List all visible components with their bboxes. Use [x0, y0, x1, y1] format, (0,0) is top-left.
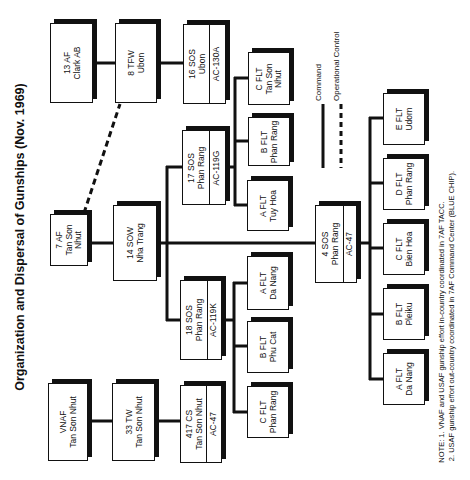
flight-17sos-a: A FLTTuy Hoa	[247, 180, 289, 231]
aircraft-type: AC-119G	[212, 150, 222, 185]
flight-4sos-d: D FLTPhan Rang	[383, 158, 425, 210]
flight-17sos-c: C FLTTan SonNhut	[248, 52, 290, 105]
note-2: 2. USAF gunship effort out-country coord…	[447, 171, 456, 461]
unit-14sow: 14 SOWNha Trang	[113, 205, 157, 281]
unit-4sos: 4 SOSPhan Rang AC-47	[315, 205, 357, 283]
unit-13af: 13 AFClark AB	[50, 23, 93, 103]
flight-18sos-a: A FLTDa Nang	[247, 256, 289, 310]
legend-operational-label: Operational Control	[332, 32, 341, 101]
unit-17sos: 17 SOSPhan Rang AC-119G	[182, 130, 226, 205]
note-1: NOTE: 1. VNAF and USAF gunship effort in…	[437, 201, 446, 462]
unit-417cs: 417 CSTan Son Nhut AC-47	[180, 385, 222, 463]
unit-8tfw: 8 TFWUbon	[115, 23, 157, 103]
org-chart: Organization and Dispersal of Gunships (…	[0, 0, 470, 480]
flight-18sos-b: B FLTPhu Cat	[247, 321, 289, 373]
flight-17sos-b: B FLTPhan Rang	[248, 117, 290, 166]
flight-4sos-e: E FLTUdorn	[383, 93, 425, 145]
flight-4sos-b: B FLTPleiku	[383, 288, 425, 340]
unit-7af: 7 AFTan SonNhut	[50, 214, 88, 266]
flight-4sos-c: C FLTBien Hoa	[383, 223, 425, 275]
aircraft-type: AC-119K	[209, 303, 219, 337]
unit-18sos: 18 SOSPhan Rang AC-119K	[180, 280, 222, 360]
unit-vnaf: VNAFTan Son Nhut	[48, 383, 88, 461]
aircraft-type: AC-130A	[212, 47, 222, 82]
aircraft-type: AC-47	[345, 232, 355, 256]
legend-command-label: Command	[314, 64, 323, 101]
aircraft-type: AC-47	[209, 412, 219, 436]
flight-4sos-a: A FLTDa Nang	[383, 353, 425, 405]
flight-18sos-c: C FLTPhan Rang	[247, 386, 289, 438]
unit-33tw: 33 TWTan Son Nhut	[112, 383, 155, 461]
unit-16sos: 16 SOSUbon AC-130A	[183, 24, 226, 104]
